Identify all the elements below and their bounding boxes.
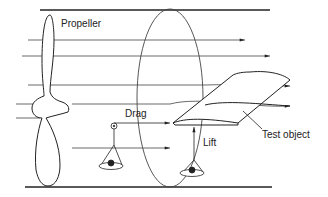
tunnel-cross-section — [137, 9, 203, 187]
lift-label: Lift — [203, 138, 216, 148]
propeller-label: Propeller — [61, 19, 101, 29]
test-object-label: Test object — [262, 130, 310, 140]
test-object-leader — [243, 111, 262, 129]
test-object-wing — [173, 72, 290, 125]
wind-tunnel-diagram — [0, 0, 328, 197]
drag-label: Drag — [125, 109, 147, 119]
drag-balance — [99, 123, 170, 170]
propeller — [32, 15, 69, 186]
